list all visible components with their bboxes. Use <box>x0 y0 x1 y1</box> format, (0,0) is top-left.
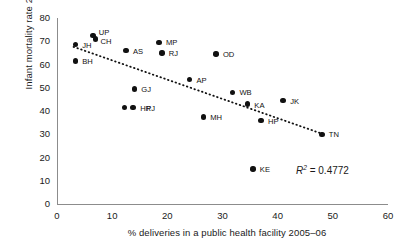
y-tick-label-30: 30 <box>26 129 50 139</box>
data-point-label-mp: MP <box>166 39 177 47</box>
y-tick-label-0: 0 <box>26 199 50 209</box>
data-point-jk[interactable] <box>280 98 285 103</box>
x-axis-title: % deliveries in a public health facility… <box>57 227 397 238</box>
trend-line-path <box>74 47 327 135</box>
y-tick-label-50: 50 <box>26 83 50 93</box>
x-tick-label-20: 20 <box>154 211 180 221</box>
x-tick-label-10: 10 <box>99 211 125 221</box>
data-point-rj[interactable] <box>159 50 164 55</box>
data-point-hp[interactable] <box>258 118 263 123</box>
data-point-gj[interactable] <box>132 86 137 91</box>
y-tick-label-80: 80 <box>26 13 50 23</box>
data-point-label-ke: KE <box>260 166 270 174</box>
y-tick-label-20: 20 <box>26 153 50 163</box>
data-point-hr[interactable] <box>130 105 135 110</box>
data-point-bh[interactable] <box>73 58 78 63</box>
data-point-label-gj: GJ <box>141 86 151 94</box>
r-value: = 0.4772 <box>307 165 349 176</box>
data-point-label-up: UP <box>99 29 110 37</box>
data-point-tn[interactable] <box>319 132 324 137</box>
x-tick-label-30: 30 <box>210 211 236 221</box>
y-tick-label-10: 10 <box>26 176 50 186</box>
data-point-label-bh: BH <box>82 58 93 66</box>
data-point-label-wb: WB <box>239 89 251 97</box>
y-tick-label-70: 70 <box>26 36 50 46</box>
x-tick-label-40: 40 <box>265 211 291 221</box>
data-point-label-rj: RJ <box>169 50 178 58</box>
r-squared-annotation: R2 = 0.4772 <box>296 164 349 176</box>
data-point-as[interactable] <box>123 48 128 53</box>
data-point-label-tn: TN <box>329 131 339 139</box>
x-tick-label-60: 60 <box>375 211 401 221</box>
y-tick-label-60: 60 <box>26 60 50 70</box>
data-point-od[interactable] <box>213 51 218 56</box>
data-point-label-jk: JK <box>290 98 299 106</box>
data-point-ke[interactable] <box>250 166 255 171</box>
data-point-label-ka: KA <box>254 102 264 110</box>
data-point-label-mh: MH <box>210 114 222 122</box>
x-tick-label-50: 50 <box>320 211 346 221</box>
y-tick-label-40: 40 <box>26 106 50 116</box>
data-point-mh[interactable] <box>201 114 206 119</box>
scatter-chart: Infant mortality rate 2005–06 % deliveri… <box>0 0 408 247</box>
x-tick-label-0: 0 <box>44 211 70 221</box>
data-point-label-hr: HR <box>140 105 151 113</box>
x-axis-line <box>57 204 388 205</box>
data-point-label-ap: AP <box>196 77 206 85</box>
data-point-label-ch: CH <box>101 38 112 46</box>
data-point-mp[interactable] <box>156 40 161 45</box>
data-point-ka[interactable] <box>245 101 250 106</box>
data-point-label-od: OD <box>223 51 234 59</box>
data-point-label-as: AS <box>133 48 143 56</box>
data-point-ch[interactable] <box>93 36 98 41</box>
data-point-label-hp: HP <box>268 118 279 126</box>
data-point-label-jh: JH <box>82 42 91 50</box>
